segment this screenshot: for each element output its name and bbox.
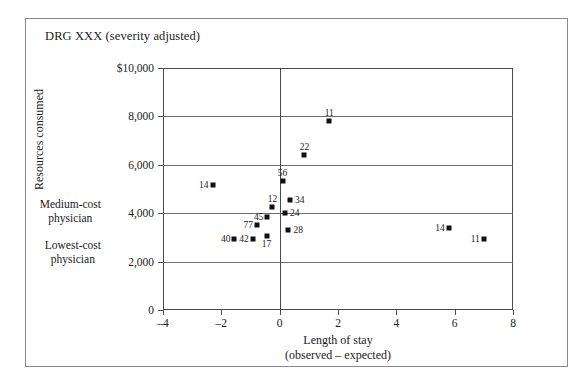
data-point-marker [265,214,270,219]
data-point-marker [232,236,237,241]
x-tick-label-2: 2 [335,317,341,329]
x-axis-title-line1: Length of stay [163,333,513,348]
data-point-marker [270,205,275,210]
data-point-label: 42 [239,234,249,244]
reference-line-x-0 [280,68,281,310]
y-tick-4000 [158,213,163,214]
medium-cost-physician-annotation: Medium-cost physician [40,198,101,225]
data-point-label: 17 [262,239,272,249]
x-tick--2 [221,310,222,315]
gridline-y-4000 [163,213,513,214]
x-tick-label--4: –4 [157,317,169,329]
gridline-y-2000 [163,262,513,263]
data-point-marker [446,225,451,230]
x-tick-label--2: –2 [216,317,228,329]
medium-cost-line2: physician [40,212,101,226]
scatter-plot-area: 02,0004,0006,0008,000$10,000 –4–202468 1… [163,68,513,310]
data-point-label: 34 [295,195,305,205]
data-point-marker [282,211,287,216]
data-point-label: 11 [471,234,480,244]
data-point-marker [264,234,269,239]
x-tick-6 [455,310,456,315]
x-tick-label-6: 6 [452,317,458,329]
y-tick-label-6000: 6,000 [128,159,154,171]
y-tick-label-10000: $10,000 [117,62,154,74]
x-axis-title-line2: (observed – expected) [163,348,513,363]
x-tick-0 [280,310,281,315]
x-tick-2 [338,310,339,315]
lowest-cost-physician-annotation: Lowest-cost physician [45,240,101,267]
y-tick-8000 [158,116,163,117]
data-point-marker [287,197,292,202]
data-point-label: 12 [268,194,278,204]
y-tick-label-2000: 2,000 [128,256,154,268]
data-point-marker [327,119,332,124]
data-point-marker [481,236,486,241]
data-point-marker [210,183,215,188]
data-point-marker [280,178,285,183]
y-tick-label-0: 0 [148,304,154,316]
x-tick-8 [513,310,514,315]
x-tick-label-4: 4 [393,317,399,329]
y-tick-label-8000: 8,000 [128,110,154,122]
x-axis-title: Length of stay (observed – expected) [163,333,513,362]
data-point-label: 14 [435,223,445,233]
gridline-y-6000 [163,165,513,166]
plot-frame [163,68,513,310]
x-tick--4 [163,310,164,315]
data-point-marker [250,236,255,241]
gridline-y-8000 [163,116,513,117]
data-point-label: 40 [221,234,231,244]
data-point-label: 24 [290,208,300,218]
data-point-label: 77 [243,220,253,230]
lowest-cost-line1: Lowest-cost [45,240,101,254]
x-tick-4 [396,310,397,315]
data-point-marker [286,228,291,233]
data-point-label: 22 [300,142,310,152]
x-tick-label-8: 8 [510,317,516,329]
figure-title: DRG XXX (severity adjusted) [45,29,200,44]
y-tick-2000 [158,262,163,263]
data-point-label: 56 [278,168,288,178]
data-point-label: 14 [199,180,209,190]
data-point-marker [254,223,259,228]
data-point-label: 11 [325,108,334,118]
y-tick-label-4000: 4,000 [128,207,154,219]
medium-cost-line1: Medium-cost [40,198,101,212]
lowest-cost-line2: physician [45,253,101,267]
y-tick-6000 [158,165,163,166]
y-tick-10000 [158,68,163,69]
y-axis-title: Resources consumed [32,89,47,190]
x-tick-label-0: 0 [277,317,283,329]
data-point-marker [302,153,307,158]
data-point-label: 45 [254,212,264,222]
data-point-label: 28 [293,225,303,235]
